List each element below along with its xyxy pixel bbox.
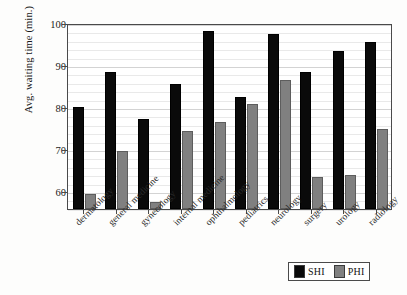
legend-entry-shi: SHI xyxy=(294,265,325,278)
bar-shi-urology xyxy=(333,51,344,209)
plot-area xyxy=(67,24,392,210)
black-square-icon xyxy=(294,265,305,278)
y-axis-tick-label: 70 xyxy=(26,144,66,155)
bar-phi-pediatrics xyxy=(247,104,258,209)
gray-square-icon xyxy=(334,265,345,278)
y-axis-tick-label: 90 xyxy=(26,60,66,71)
bar-chart-figure: Avg. waiting time (min.) 60708090100 der… xyxy=(0,0,407,295)
y-axis-tick-label: 60 xyxy=(26,186,66,197)
legend-entry-phi: PHI xyxy=(334,265,365,278)
bar-shi-surgery xyxy=(300,72,311,209)
bar-phi-ophthalmology xyxy=(215,122,226,209)
y-axis-tick-label: 80 xyxy=(26,102,66,113)
bar-shi-dermatology xyxy=(73,107,84,209)
bar-phi-radiology xyxy=(377,129,388,209)
bar-group-container xyxy=(68,25,391,209)
bar-shi-radiology xyxy=(365,42,376,209)
bar-phi-neurology xyxy=(280,80,291,209)
bar-shi-neurology xyxy=(268,34,279,209)
legend-label-shi: SHI xyxy=(308,266,325,277)
y-axis-tick-label: 100 xyxy=(26,19,66,30)
chart-legend: SHIPHI xyxy=(288,262,370,281)
bar-phi-internal-medicine xyxy=(182,131,193,209)
legend-label-phi: PHI xyxy=(348,266,365,277)
